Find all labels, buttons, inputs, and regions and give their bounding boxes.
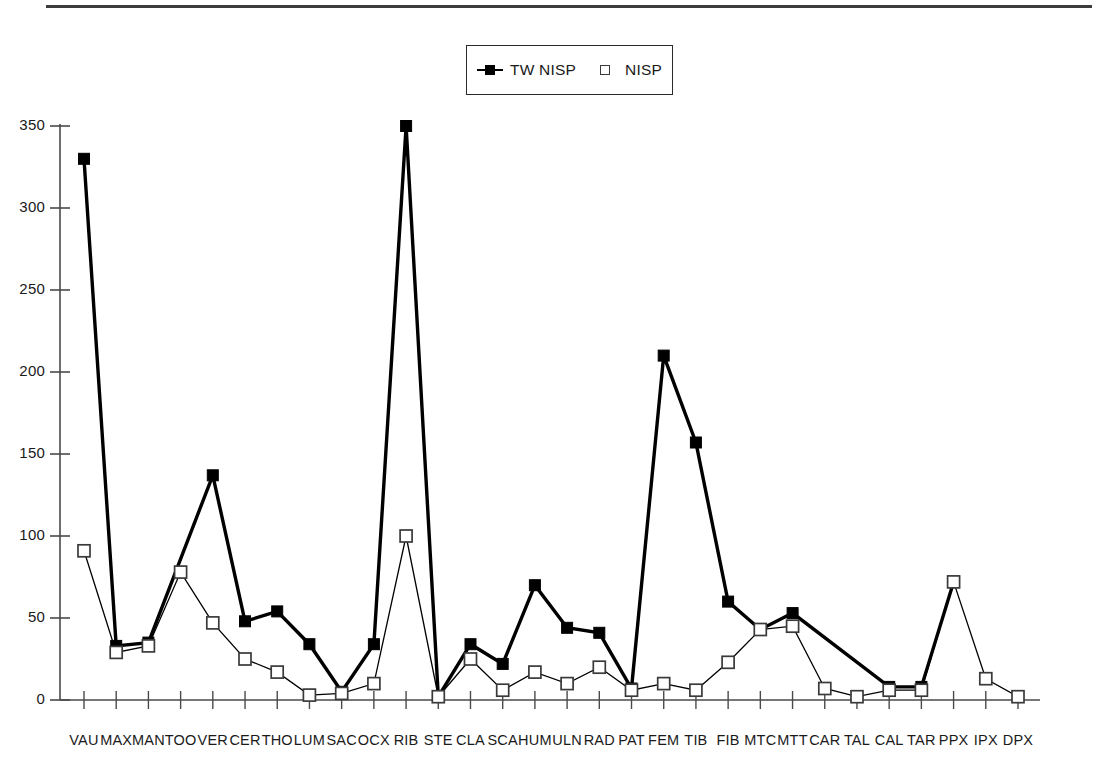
data-point-marker [561,678,573,690]
y-axis-tick-label: 300 [5,198,45,215]
x-axis-tick-label: VER [198,732,228,748]
y-axis-tick-label: 350 [5,116,45,133]
data-point-marker [400,530,412,542]
data-point-marker [79,153,90,164]
data-point-marker [207,470,218,481]
data-point-marker [304,639,315,650]
series-tw-nisp [79,121,960,703]
series-line [84,536,1018,697]
x-axis-tick-label: CER [229,732,260,748]
data-point-marker [78,545,90,557]
x-axis-tick-label: SCA [487,732,517,748]
chart-page: TW NISP NISP 050100150200250300350 VAUMA… [0,0,1097,776]
x-axis-tick-label: TOO [165,732,197,748]
plot-area: 050100150200250300350 VAUMAXMANTOOVERCER… [0,0,1097,776]
data-point-marker [787,608,798,619]
data-point-marker [239,653,251,665]
x-axis-tick-label: CAR [809,732,840,748]
data-point-marker [303,689,315,701]
x-axis-tick-label: SAC [326,732,356,748]
data-point-marker [723,596,734,607]
data-point-marker [690,437,701,448]
x-axis-tick-label: VAU [69,732,98,748]
data-point-marker [754,624,766,636]
data-point-marker [626,684,638,696]
data-point-marker [980,673,992,685]
data-point-marker [271,666,283,678]
data-point-marker [722,656,734,668]
x-axis-tick-label: THO [262,732,293,748]
chart-canvas [0,0,1097,776]
data-point-marker [401,121,412,132]
x-axis-tick-label: LUM [294,732,325,748]
data-point-marker [658,350,669,361]
data-point-marker [594,627,605,638]
data-point-marker [883,684,895,696]
data-point-marker [368,678,380,690]
y-axis-tick-label: 200 [5,362,45,379]
data-point-marker [690,684,702,696]
data-point-marker [529,666,541,678]
data-point-marker [658,678,670,690]
data-point-marker [336,687,348,699]
x-axis-tick-label: TAL [844,732,870,748]
x-axis-tick-label: PPX [939,732,969,748]
data-point-marker [948,576,960,588]
data-point-marker [593,661,605,673]
y-axis-tick-label: 100 [5,526,45,543]
data-point-marker [497,684,509,696]
data-point-marker [562,622,573,633]
data-point-marker [240,616,251,627]
x-axis-tick-label: PAT [618,732,645,748]
data-point-marker [175,566,187,578]
data-point-marker [787,620,799,632]
data-point-marker [272,606,283,617]
x-axis-tick-label: CLA [456,732,485,748]
data-point-marker [110,646,122,658]
data-point-marker [915,684,927,696]
data-point-marker [819,683,831,695]
x-axis-tick-label: DPX [1003,732,1033,748]
data-point-marker [529,580,540,591]
x-axis-tick-label: IPX [974,732,998,748]
x-axis-tick-label: FEM [648,732,679,748]
series-layer [78,121,1024,703]
x-axis-tick-label: TAR [907,732,936,748]
data-point-marker [1012,691,1024,703]
x-axis-tick-label: MTC [744,732,776,748]
x-axis-tick-label: MAX [100,732,132,748]
x-axis-tick-label: TIB [684,732,707,748]
x-axis-tick-label: STE [424,732,453,748]
x-axis-tick-label: RIB [394,732,419,748]
data-point-marker [207,617,219,629]
data-point-marker [465,653,477,665]
y-axis-tick-label: 50 [5,608,45,625]
data-point-marker [142,640,154,652]
data-point-marker [465,639,476,650]
x-axis-tick-label: ULN [552,732,582,748]
axis-layer [50,124,1040,709]
x-axis-tick-label: MTT [777,732,807,748]
data-point-marker [368,639,379,650]
series-nisp [78,530,1024,703]
x-axis-tick-label: OCX [358,732,390,748]
x-axis-tick-label: CAL [875,732,904,748]
data-point-marker [851,691,863,703]
y-axis-tick-label: 0 [5,690,45,707]
x-axis-tick-label: MAN [132,732,165,748]
y-axis-tick-label: 150 [5,444,45,461]
series-line [84,126,954,697]
x-axis-tick-label: HUM [518,732,552,748]
data-point-marker [497,658,508,669]
x-axis-tick-label: RAD [584,732,615,748]
y-axis-tick-label: 250 [5,280,45,297]
data-point-marker [432,691,444,703]
x-axis-tick-label: FIB [717,732,740,748]
